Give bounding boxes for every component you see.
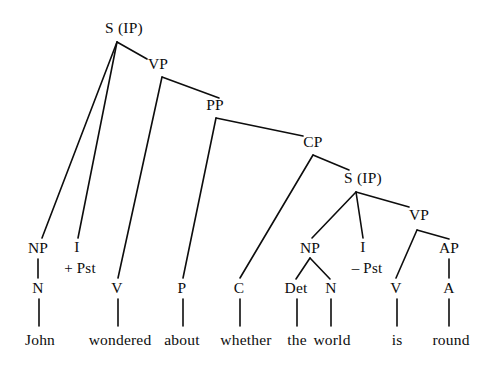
tree-branch — [117, 42, 147, 59]
tree-word-w_about: about — [164, 332, 199, 348]
tree-branch-layer — [0, 0, 489, 366]
tree-branch — [356, 192, 409, 207]
tree-branch — [118, 77, 162, 278]
tree-word-w_wondered: wondered — [89, 332, 152, 348]
tree-branch — [183, 118, 216, 278]
tree-node-s_root: S (IP) — [105, 20, 143, 36]
tree-node-np2: NP — [300, 240, 320, 256]
tree-node-det1: Det — [285, 280, 308, 296]
tree-node-vp2: VP — [409, 207, 429, 223]
tree-branch — [42, 42, 117, 238]
tree-node-p1: P — [178, 280, 187, 296]
tree-branch — [240, 155, 313, 278]
tree-node-cp: CP — [303, 134, 322, 150]
tree-word-w_john: John — [25, 332, 55, 348]
tree-node-a1: A — [443, 280, 454, 296]
tree-branch — [312, 192, 356, 238]
tree-node-i1_feat: + Pst — [64, 261, 96, 276]
tree-branch — [313, 155, 349, 170]
tree-word-w_world: world — [313, 332, 350, 348]
tree-node-np1: NP — [28, 240, 48, 256]
tree-node-n2: N — [325, 280, 336, 296]
tree-node-s_embed: S (IP) — [344, 170, 382, 186]
tree-node-i2_feat: – Pst — [352, 261, 383, 276]
tree-node-ap: AP — [439, 240, 459, 256]
tree-word-w_whether: whether — [220, 332, 271, 348]
tree-branch — [396, 230, 417, 278]
tree-branch — [310, 258, 330, 279]
syntax-tree-figure: S (IP)VPPPCPS (IP)VPNPI+ PstNPI– PstAPNV… — [0, 0, 489, 366]
tree-branch — [216, 118, 303, 136]
tree-node-i1: I — [74, 239, 79, 255]
tree-node-v1: V — [111, 280, 122, 296]
tree-node-v2: V — [390, 280, 401, 296]
tree-branch — [296, 258, 310, 279]
tree-node-i2: I — [360, 239, 365, 255]
tree-branch — [78, 42, 117, 238]
tree-word-w_the: the — [287, 332, 307, 348]
tree-word-w_is: is — [392, 332, 403, 348]
tree-node-c1: C — [234, 280, 245, 296]
tree-branch — [162, 77, 219, 98]
tree-branch — [356, 192, 363, 238]
tree-branch — [417, 230, 449, 239]
tree-node-pp: PP — [206, 97, 224, 113]
tree-node-n1: N — [32, 280, 43, 296]
tree-word-w_round: round — [432, 332, 469, 348]
tree-node-vp1: VP — [148, 56, 168, 72]
